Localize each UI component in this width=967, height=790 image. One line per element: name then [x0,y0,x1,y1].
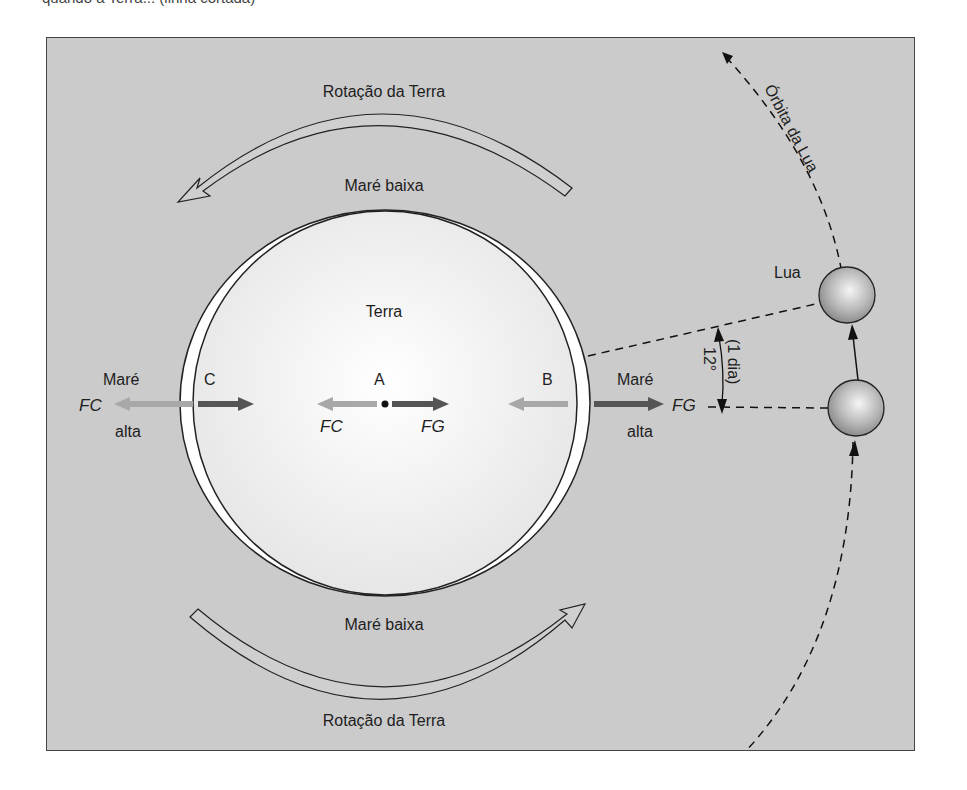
orbit-lower-arrowhead [849,440,859,456]
point-c-label: C [204,371,216,388]
angle-arrowhead-top [714,327,724,342]
line-to-moon-now [708,407,829,408]
angle-label: 12° [701,347,718,371]
left-tide-line2: alta [115,423,141,440]
low-tide-label-bottom: Maré baixa [344,616,423,633]
low-tide-label-top: Maré baixa [344,177,423,194]
moon-orbit [726,57,841,268]
center-point-a [382,401,389,408]
tide-diagram: Rotação da Terra Maré baixa Terra Maré b… [0,0,967,790]
right-fg-label: FG [672,396,696,415]
earth-label: Terra [366,303,403,320]
left-tide-line1: Maré [103,371,140,388]
right-tide-line2: alta [627,423,653,440]
rotation-label-bottom: Rotação da Terra [323,712,446,729]
angle-note: (1 dia) [725,339,742,384]
orbit-label: Órbita da Lua [761,81,822,175]
center-fg-label: FG [421,417,445,436]
right-tide-line1: Maré [617,371,654,388]
left-fc-label: FC [79,396,102,415]
rotation-label-top: Rotação da Terra [323,83,446,100]
right-fg-arrow [594,397,664,411]
moon-motion-line [853,336,858,380]
moon-now [828,380,884,436]
center-fc-label: FC [320,417,343,436]
point-a-label: A [374,371,385,388]
moon-motion-arrowhead [848,324,858,340]
moon-orbit-lower [745,442,853,752]
angle-arc [719,337,723,404]
moon-label: Lua [774,264,801,281]
moon-later [819,267,875,323]
point-b-label: B [542,371,553,388]
